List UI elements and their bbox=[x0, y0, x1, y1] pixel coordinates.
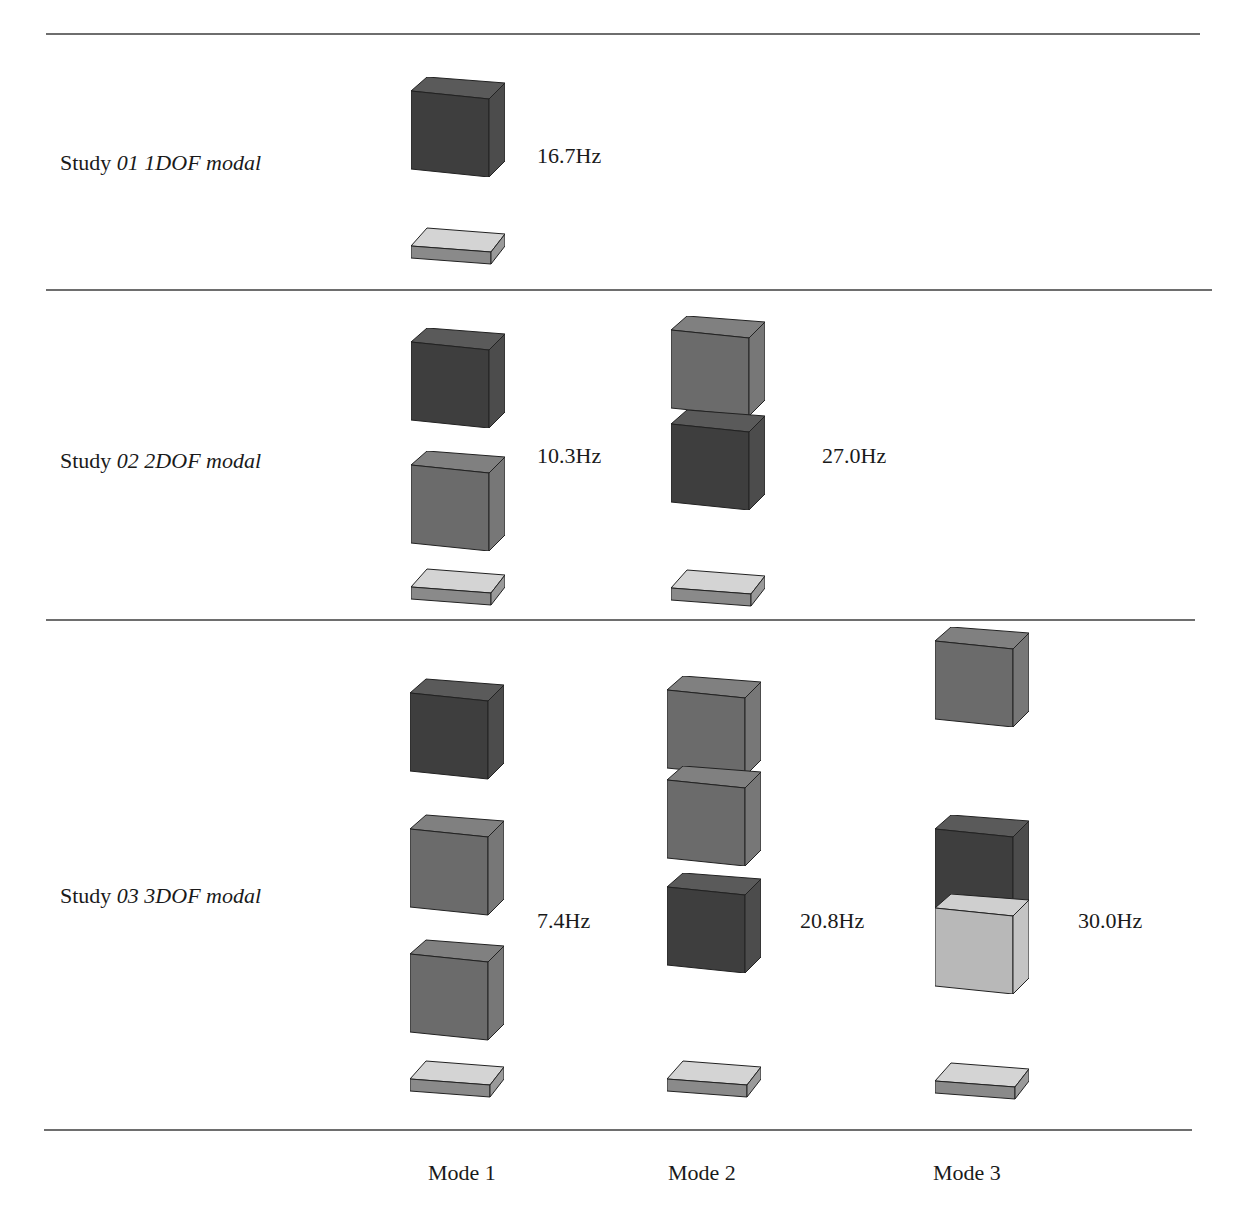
study-prefix: Study bbox=[60, 150, 117, 175]
row-divider-2 bbox=[46, 619, 1195, 621]
frequency-row3-mode3: 30.0Hz bbox=[1078, 908, 1142, 934]
mode-shape-illustrations bbox=[0, 0, 1243, 1212]
frequency-row2-mode2: 27.0Hz bbox=[822, 443, 886, 469]
base-plate-icon bbox=[411, 228, 505, 264]
mass-cube-icon bbox=[410, 815, 504, 915]
study-label-row-1: Study 01 1DOF modal bbox=[60, 150, 261, 176]
mass-cube-icon bbox=[411, 451, 505, 551]
mass-cube-icon bbox=[667, 676, 761, 776]
mass-cube-icon bbox=[667, 766, 761, 866]
row-divider-1 bbox=[46, 289, 1212, 291]
row2-mode2-shape bbox=[671, 316, 765, 606]
mode-label-1: Mode 1 bbox=[428, 1160, 496, 1186]
study-label-row-3: Study 03 3DOF modal bbox=[60, 883, 261, 909]
study-prefix: Study bbox=[60, 448, 117, 473]
row3-mode1-shape bbox=[410, 679, 504, 1097]
row1-mode1-shape bbox=[411, 77, 505, 264]
table-top-rule bbox=[46, 33, 1200, 35]
study-name: 03 3DOF modal bbox=[117, 883, 261, 908]
base-plate-icon bbox=[935, 1063, 1029, 1099]
row2-mode1-shape bbox=[411, 328, 505, 605]
study-prefix: Study bbox=[60, 883, 117, 908]
mass-cube-icon bbox=[410, 940, 504, 1040]
mass-cube-icon bbox=[410, 679, 504, 779]
mass-cube-icon bbox=[935, 894, 1029, 994]
mass-cube-icon bbox=[671, 410, 765, 510]
row3-mode3-shape bbox=[935, 627, 1029, 1099]
frequency-row3-mode2: 20.8Hz bbox=[800, 908, 864, 934]
base-plate-icon bbox=[411, 569, 505, 605]
frequency-row1-mode1: 16.7Hz bbox=[537, 143, 601, 169]
mass-cube-icon bbox=[667, 873, 761, 973]
base-plate-icon bbox=[671, 570, 765, 606]
frequency-row2-mode1: 10.3Hz bbox=[537, 443, 601, 469]
row3-mode2-shape bbox=[667, 676, 761, 1097]
mass-cube-icon bbox=[935, 815, 1029, 915]
mode-label-3: Mode 3 bbox=[933, 1160, 1001, 1186]
mode-label-2: Mode 2 bbox=[668, 1160, 736, 1186]
frequency-row3-mode1: 7.4Hz bbox=[537, 908, 590, 934]
mass-cube-icon bbox=[935, 627, 1029, 727]
table-bottom-rule bbox=[44, 1129, 1192, 1131]
mass-cube-icon bbox=[671, 316, 765, 416]
study-label-row-2: Study 02 2DOF modal bbox=[60, 448, 261, 474]
mass-cube-icon bbox=[411, 328, 505, 428]
study-name: 02 2DOF modal bbox=[117, 448, 261, 473]
base-plate-icon bbox=[667, 1061, 761, 1097]
study-name: 01 1DOF modal bbox=[117, 150, 261, 175]
mass-cube-icon bbox=[411, 77, 505, 177]
base-plate-icon bbox=[410, 1061, 504, 1097]
